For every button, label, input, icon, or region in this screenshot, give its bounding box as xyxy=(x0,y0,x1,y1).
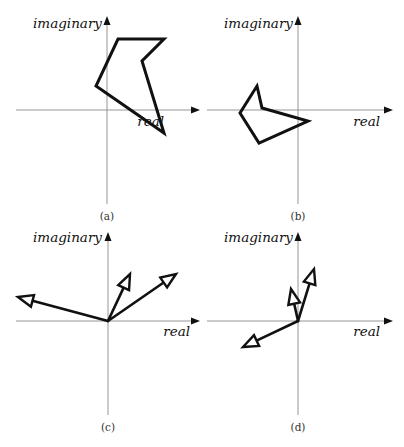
real-axis-label: real xyxy=(137,113,164,129)
real-axis-label: real xyxy=(353,323,380,339)
vector-arrow xyxy=(298,269,315,321)
panel-b: imaginaryreal(b) xyxy=(207,15,393,222)
vector-arrow xyxy=(18,295,108,321)
real-axis-label: real xyxy=(353,113,380,129)
real-axis-arrow-icon xyxy=(384,107,393,114)
vector-arrow xyxy=(243,321,298,347)
vector-shaft xyxy=(294,304,298,321)
panel-caption: (c) xyxy=(101,421,115,433)
axes xyxy=(207,16,393,204)
vector-shaft xyxy=(32,301,108,321)
imaginary-axis-label: imaginary xyxy=(224,15,293,31)
panel-c: imaginaryreal(c) xyxy=(16,229,200,433)
real-axis-label: real xyxy=(163,323,190,339)
imaginary-axis-label: imaginary xyxy=(33,15,102,31)
imaginary-axis-label: imaginary xyxy=(224,229,293,245)
panel-caption: (b) xyxy=(291,210,306,222)
axes xyxy=(16,16,200,204)
arrowhead-icon xyxy=(243,335,259,347)
panel-caption: (a) xyxy=(100,210,114,222)
panel-caption: (d) xyxy=(291,421,306,433)
panel-a: imaginaryreal(a) xyxy=(16,15,200,222)
vector-shaft xyxy=(257,321,298,341)
real-axis-arrow-icon xyxy=(191,107,200,114)
imaginary-axis-arrow-icon xyxy=(104,16,111,25)
arrowhead-icon xyxy=(118,274,130,290)
complex-plane-figure: imaginaryreal(a) imaginaryreal(b) imagin… xyxy=(0,0,404,447)
real-axis-arrow-icon xyxy=(191,318,200,325)
panel-d: imaginaryreal(d) xyxy=(207,229,393,433)
imaginary-axis-arrow-icon xyxy=(295,232,302,241)
arrowhead-icon xyxy=(160,274,176,287)
imaginary-axis-arrow-icon xyxy=(105,232,112,241)
real-axis-arrow-icon xyxy=(384,318,393,325)
arrowhead-icon xyxy=(18,295,34,307)
imaginary-axis-arrow-icon xyxy=(295,16,302,25)
imaginary-axis-label: imaginary xyxy=(33,229,102,245)
arrowhead-icon xyxy=(304,269,315,285)
